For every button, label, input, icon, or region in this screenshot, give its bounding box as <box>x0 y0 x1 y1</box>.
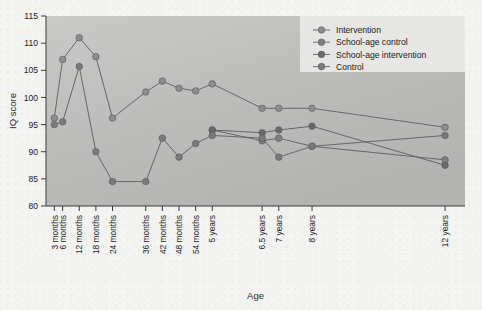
y-axis-title: IQ score <box>7 93 18 129</box>
data-point[interactable] <box>109 115 116 122</box>
x-axis-title: Age <box>247 290 264 301</box>
data-point[interactable] <box>59 56 66 63</box>
data-point[interactable] <box>275 127 282 134</box>
data-point[interactable] <box>442 124 449 131</box>
legend-label[interactable]: Control <box>336 62 364 72</box>
legend-marker <box>318 27 325 34</box>
legend-label[interactable]: School-age intervention <box>336 50 427 60</box>
data-point[interactable] <box>159 78 166 85</box>
data-point[interactable] <box>209 81 216 88</box>
y-tick-label: 90 <box>28 147 38 157</box>
y-tick-label: 85 <box>28 174 38 184</box>
x-tick-label: 48 months <box>174 215 184 254</box>
legend-marker <box>318 51 325 58</box>
y-tick-label: 105 <box>24 65 39 75</box>
data-point[interactable] <box>309 123 316 130</box>
data-point[interactable] <box>275 105 282 112</box>
data-point[interactable] <box>159 135 166 142</box>
data-point[interactable] <box>259 135 266 142</box>
x-tick-label: 12 years <box>440 215 450 247</box>
x-tick-label: 12 months <box>74 215 84 254</box>
iq-score-line-chart: 808590951001051101153 months6 months12 m… <box>0 0 482 310</box>
x-tick-label: 6.5 years <box>257 215 267 249</box>
data-point[interactable] <box>76 63 83 70</box>
legend-label[interactable]: School-age control <box>336 37 408 47</box>
x-tick-label: 8 years <box>307 215 317 242</box>
data-point[interactable] <box>176 154 183 161</box>
data-point[interactable] <box>93 148 100 155</box>
data-point[interactable] <box>209 132 216 139</box>
data-point[interactable] <box>192 88 199 95</box>
data-point[interactable] <box>142 178 149 185</box>
data-point[interactable] <box>309 143 316 150</box>
data-point[interactable] <box>192 140 199 147</box>
y-tick-label: 115 <box>24 11 38 21</box>
x-tick-label: 5 years <box>207 215 217 242</box>
data-point[interactable] <box>93 53 100 60</box>
data-point[interactable] <box>259 105 266 112</box>
data-point[interactable] <box>275 154 282 161</box>
y-tick-label: 95 <box>28 120 38 130</box>
x-tick-label: 42 months <box>158 215 168 254</box>
data-point[interactable] <box>442 132 449 139</box>
data-point[interactable] <box>176 85 183 92</box>
y-tick-label: 110 <box>24 38 38 48</box>
data-point[interactable] <box>109 178 116 185</box>
x-tick-label: 24 months <box>108 215 118 254</box>
data-point[interactable] <box>442 162 449 169</box>
x-tick-label: 54 months <box>191 215 201 254</box>
legend-marker <box>318 39 325 46</box>
y-tick-label: 100 <box>24 93 39 103</box>
data-point[interactable] <box>51 121 58 128</box>
x-tick-label: 36 months <box>141 215 151 254</box>
data-point[interactable] <box>76 34 83 41</box>
x-tick-label: 6 months <box>58 215 68 249</box>
x-tick-label: 18 months <box>91 215 101 254</box>
data-point[interactable] <box>309 105 316 112</box>
data-point[interactable] <box>142 89 149 96</box>
data-point[interactable] <box>275 135 282 142</box>
data-point[interactable] <box>51 115 58 122</box>
data-point[interactable] <box>59 119 66 126</box>
y-tick-label: 80 <box>28 201 38 211</box>
legend-marker <box>318 63 325 70</box>
legend-label[interactable]: Intervention <box>336 25 381 35</box>
x-tick-label: 7 years <box>274 215 284 242</box>
figure-container: 808590951001051101153 months6 months12 m… <box>0 0 482 310</box>
